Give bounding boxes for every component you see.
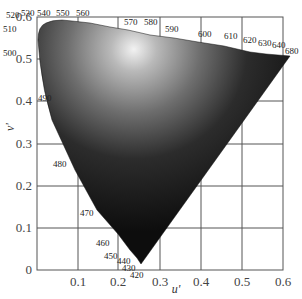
y-tick-0.4: 0.4 (16, 93, 33, 108)
wl-470: 470 (80, 208, 94, 218)
wl-590: 590 (165, 24, 179, 34)
wl-450: 450 (104, 251, 118, 261)
y-tick-0.3: 0.3 (16, 136, 32, 151)
wl-600: 600 (198, 29, 212, 39)
y-tick-0.1: 0.1 (16, 220, 32, 235)
wl-680: 680 (285, 46, 299, 56)
wl-560: 560 (76, 8, 90, 18)
y-tick-0: 0 (26, 262, 33, 277)
wl-630: 630 (258, 38, 272, 48)
wl-540: 540 (37, 8, 51, 18)
x-tick-0.1: 0.1 (70, 274, 86, 289)
wl-550: 550 (56, 8, 70, 18)
y-tick-0.5: 0.5 (16, 51, 32, 66)
x-tick-0.5: 0.5 (234, 274, 250, 289)
wl-510: 510 (3, 24, 17, 34)
wl-490: 490 (38, 93, 52, 103)
wl-580: 580 (144, 17, 158, 27)
y-tick-0.2: 0.2 (16, 178, 32, 193)
x-axis-label: u' (172, 282, 181, 296)
wl-420: 420 (130, 270, 144, 280)
wl-610: 610 (224, 31, 238, 41)
wl-460: 460 (96, 238, 110, 248)
wl-570: 570 (124, 17, 138, 27)
x-tick-0.3: 0.3 (152, 274, 168, 289)
wl-640: 640 (272, 40, 286, 50)
x-tick-0.4: 0.4 (193, 274, 210, 289)
wl-620: 620 (243, 35, 257, 45)
wl-500: 500 (3, 48, 17, 58)
x-axis-ticks: 0.1 0.2 0.3 0.4 0.5 0.6 (70, 274, 292, 289)
x-tick-0.6: 0.6 (275, 274, 292, 289)
x-tick-0.2: 0.2 (110, 274, 126, 289)
wl-480: 480 (53, 159, 67, 169)
chromaticity-chart: 0 0.1 0.2 0.3 0.4 0.5 0.6 0.1 0.2 0.3 0.… (0, 0, 302, 299)
wl-530: 530 (21, 8, 35, 18)
spectral-locus-area (38, 20, 290, 264)
wl-520: 520 (6, 10, 20, 20)
y-axis-label: v' (3, 123, 17, 131)
y-axis-ticks: 0 0.1 0.2 0.3 0.4 0.5 0.6 (16, 9, 33, 277)
